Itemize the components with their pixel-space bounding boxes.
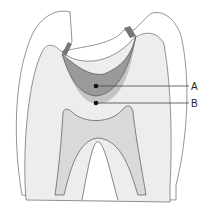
pointer-dot-a [94,84,99,89]
label-b-text: B [191,98,198,109]
pointer-dot-b [94,101,99,106]
label-a-text: A [191,81,198,92]
tooth-diagram: A B [0,0,210,210]
